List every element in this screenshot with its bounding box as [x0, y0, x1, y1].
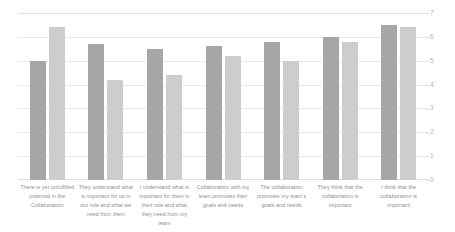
y-axis-tick-5: 5 [430, 57, 448, 64]
bar-series-2 [400, 27, 416, 180]
category-label: I think that the collaboration is import… [371, 183, 426, 210]
category-label: I understand what is important for them … [137, 183, 192, 228]
bar-series-1 [147, 49, 163, 180]
y-axis-tick-4: 4 [430, 81, 448, 88]
category-label: Collaboration with my team promotes thei… [196, 183, 251, 210]
y-axis-tick-2: 2 [430, 129, 448, 136]
category-label: They think that the collaboration is imp… [313, 183, 368, 210]
bar-chart: 76543210 There is yet unfulfilled potent… [0, 0, 455, 232]
bar-series-1 [88, 44, 104, 180]
bar-series-2 [107, 80, 123, 180]
bar-series-2 [166, 75, 182, 180]
bar-series-1 [381, 25, 397, 180]
bar-series-2 [225, 56, 241, 180]
y-axis-tick-3: 3 [430, 105, 448, 112]
bar-group [264, 13, 299, 180]
bar-group [88, 13, 123, 180]
y-axis-tick-mark [426, 180, 429, 181]
bar-series-2 [49, 27, 65, 180]
bar-series-1 [323, 37, 339, 180]
bar-group [147, 13, 182, 180]
bar-series-2 [342, 42, 358, 180]
bar-series-1 [264, 42, 280, 180]
bar-series-2 [283, 61, 299, 180]
bar-group [381, 13, 416, 180]
category-labels: There is yet unfulfilled potential in th… [18, 183, 428, 232]
bar-series-1 [206, 46, 222, 180]
bar-group [323, 13, 358, 180]
category-label: There is yet unfulfilled potential in th… [20, 183, 75, 210]
bar-group [206, 13, 241, 180]
y-axis-tick-7: 7 [430, 10, 448, 17]
category-label: They understand what is important for us… [79, 183, 134, 219]
bars-layer [18, 13, 428, 180]
y-axis-tick-1: 1 [430, 153, 448, 160]
category-label: The collaboration promotes my team's goa… [254, 183, 309, 210]
y-axis-tick-6: 6 [430, 34, 448, 41]
y-axis-tick-0: 0 [430, 177, 448, 184]
bar-series-1 [30, 61, 46, 180]
y-axis: 76543210 [430, 0, 455, 232]
bar-group [30, 13, 65, 180]
